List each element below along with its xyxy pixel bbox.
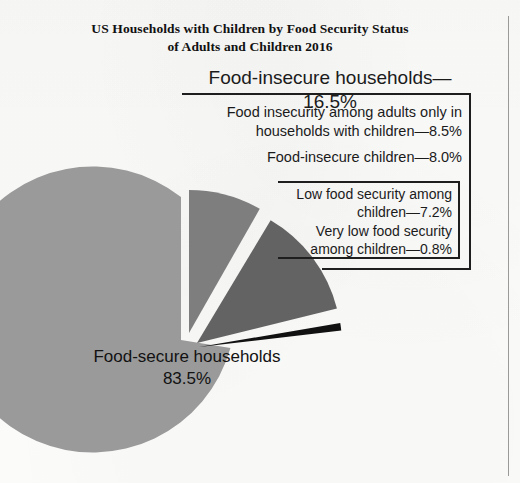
chart-title-line-1: US Households with Children by Food Secu…	[30, 20, 470, 38]
bracket-inner-bottom-rule	[278, 257, 460, 259]
label-food-secure-households-name: Food-secure households	[62, 346, 312, 368]
bracket-inner-right-stem	[458, 181, 460, 258]
chart-title-line-2: of Adults and Children 2016	[30, 38, 470, 56]
bracket-outer-bottom-rule	[322, 268, 471, 270]
page-edge-rule	[508, 16, 509, 476]
chart-title: US Households with Children by Food Secu…	[30, 20, 470, 56]
label-food-insecure-children: Food-insecure children—8.0%	[250, 148, 462, 167]
bracket-outer-top-rule	[182, 93, 471, 95]
label-low-food-security-children: Low food security among children—7.2%	[294, 186, 452, 221]
bracket-inner-top-rule	[278, 181, 460, 183]
bracket-outer-right-stem	[469, 93, 471, 270]
label-food-insecurity-adults-only: Food insecurity among adults only in hou…	[210, 103, 462, 140]
label-food-secure-households-value: 83.5%	[62, 368, 312, 390]
label-food-secure-households: Food-secure households 83.5%	[62, 346, 312, 390]
chart-page: US Households with Children by Food Secu…	[0, 0, 520, 483]
label-very-low-food-security-children: Very low food security among children—0.…	[294, 223, 452, 258]
